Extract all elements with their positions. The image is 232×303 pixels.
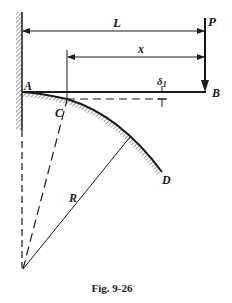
label-P: P	[208, 14, 217, 29]
label-x: x	[137, 42, 144, 56]
figure-caption: Fig. 9-26	[92, 282, 133, 294]
label-delta: δ1	[157, 75, 167, 89]
label-L: L	[112, 15, 121, 30]
fixed-wall	[16, 12, 22, 268]
beam-diagram: L P x A B C D R δ1 Fig. 9-26	[0, 0, 232, 303]
label-A: A	[23, 79, 32, 93]
curved-support-CD	[20, 92, 162, 174]
label-D: D	[161, 173, 171, 187]
label-R: R	[68, 191, 77, 205]
load-P-arrow	[201, 18, 209, 92]
label-C: C	[55, 106, 64, 120]
label-B: B	[211, 86, 220, 100]
